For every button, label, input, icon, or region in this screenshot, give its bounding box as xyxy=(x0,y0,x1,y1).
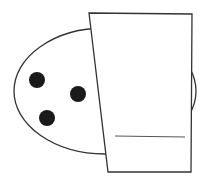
dot-2 xyxy=(70,86,86,102)
dot-1 xyxy=(29,72,45,88)
dot-3 xyxy=(39,110,55,126)
diagram-canvas xyxy=(0,0,210,176)
